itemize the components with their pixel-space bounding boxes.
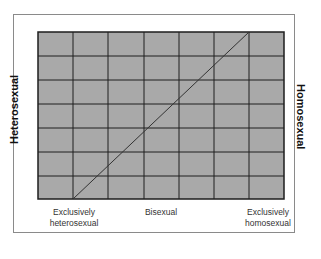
y-axis-label-right: Homosexual xyxy=(295,84,307,144)
y-axis-label-left: Heterosexual xyxy=(8,84,20,144)
x-label-exclusively-heterosexual: Exclusively heterosexual xyxy=(38,207,110,229)
x-label-right-line2: homosexual xyxy=(232,218,304,229)
x-label-right-line1: Exclusively xyxy=(232,207,304,218)
x-label-left-line2: heterosexual xyxy=(38,218,110,229)
x-label-exclusively-homosexual: Exclusively homosexual xyxy=(232,207,304,229)
x-label-bisexual: Bisexual xyxy=(136,207,186,218)
x-label-left-line1: Exclusively xyxy=(38,207,110,218)
